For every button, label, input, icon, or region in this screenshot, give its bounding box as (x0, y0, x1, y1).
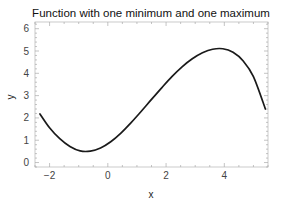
plot-frame (35, 22, 268, 167)
y-tick-label: 0 (23, 157, 29, 168)
x-tick-label: 0 (105, 170, 111, 181)
function-curve (40, 49, 265, 152)
x-axis-tick-labels: −2024 (44, 170, 228, 181)
x-axis-label: x (149, 189, 154, 200)
y-axis-tick-labels: 0123456 (23, 23, 29, 168)
y-tick-label: 5 (23, 46, 29, 57)
line-chart: Function with one minimum and one maximu… (0, 0, 282, 206)
y-tick-label: 3 (23, 90, 29, 101)
y-tick-label: 1 (23, 135, 29, 146)
y-tick-label: 6 (23, 23, 29, 34)
x-tick-label: 2 (163, 170, 169, 181)
x-axis-ticks (35, 22, 268, 167)
y-tick-label: 2 (23, 112, 29, 123)
x-tick-label: −2 (44, 170, 56, 181)
chart-title: Function with one minimum and one maximu… (32, 7, 270, 19)
y-tick-label: 4 (23, 68, 29, 79)
x-tick-label: 4 (222, 170, 228, 181)
y-axis-label: y (5, 95, 16, 100)
